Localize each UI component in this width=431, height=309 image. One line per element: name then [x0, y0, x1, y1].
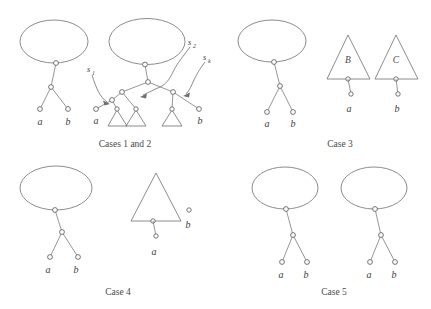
panel-case-4: a b a b Case 4 [20, 166, 191, 297]
node-triangle-apex-2 [134, 107, 138, 111]
ellipse-blob [20, 20, 88, 63]
s1-label: s [87, 64, 91, 74]
s2-label: s [188, 37, 192, 47]
panel-caption: Cases 1 and 2 [99, 139, 152, 149]
edge-root-to-mid [274, 62, 280, 86]
node-leaf-b [393, 260, 398, 265]
node-mid [278, 84, 283, 89]
subtree-triangle-right: a [131, 173, 181, 257]
diagram-svg: a b [0, 0, 431, 309]
leaf-label-b: b [186, 219, 191, 230]
s2-leader-curve [162, 47, 190, 86]
edge-left-to-tri2 [122, 92, 136, 109]
sk-subscript: k [208, 58, 211, 64]
subtree-triangle-2 [126, 110, 146, 126]
leaf-label-a: a [38, 116, 43, 127]
node-spine-right [171, 90, 176, 95]
node-leaf-a [38, 107, 43, 112]
edge-spine-left [122, 82, 148, 92]
s2-arrowhead [140, 94, 147, 99]
leaf-label-a: a [46, 264, 51, 275]
edge-root-to-mid [55, 210, 62, 232]
node-leaf-b [76, 255, 81, 260]
leaf-label-a: a [94, 115, 99, 126]
leaf-label-a: a [367, 269, 372, 280]
edge-mid-to-leaf-a [40, 87, 51, 109]
panel-caption: Case 4 [105, 287, 131, 297]
panel-case-3: a b B a C b Case 3 [238, 20, 418, 149]
edge-root-to-mid [375, 209, 381, 235]
subtree-B: B a [327, 35, 370, 114]
ellipse-blob [238, 20, 306, 62]
node-root [143, 62, 148, 67]
node-leaf-b [396, 92, 400, 96]
ellipse-blob [109, 19, 185, 65]
tree-expanded-right: a b s 1 s 2 s k [87, 19, 211, 127]
edge-mid-to-leaf-b [62, 232, 78, 257]
s1-subscript: 1 [92, 70, 95, 76]
edge-mid-to-leaf-b [51, 87, 68, 109]
figure-canvas: a b [0, 0, 431, 309]
s2-subscript: 2 [193, 43, 196, 49]
edge-mid-to-leaf-b [280, 86, 293, 112]
tree-simple-left: a b [20, 166, 92, 275]
leaf-label-a: a [265, 118, 270, 129]
node-root [272, 60, 277, 65]
s1-leader-curve [92, 75, 107, 102]
tree-right: a b [341, 167, 407, 280]
subtree-label-B: B [345, 55, 351, 65]
edge-mid-to-leaf-a [370, 235, 381, 262]
edge-mid-to-leaf-a [267, 86, 280, 112]
edge-mid-to-leaf-a [50, 232, 62, 257]
subtree-label-C: C [393, 55, 400, 65]
triangle-unlabeled [131, 173, 181, 221]
s2-arrow-shaft [143, 86, 162, 95]
edge-mid-to-leaf-b [293, 235, 307, 262]
leaf-label-b: b [304, 269, 309, 280]
panel-caption: Case 3 [327, 139, 353, 149]
node-triangle-apex-3 [170, 107, 174, 111]
panel-case-5: a b a b Case 5 [252, 167, 407, 297]
edge-mid-to-leaf-a [282, 235, 293, 262]
node-mid [49, 85, 54, 90]
edge-root-to-mid [51, 63, 56, 87]
node-leaf-a [48, 255, 53, 260]
node-leaf-b [291, 110, 296, 115]
node-leaf-a [265, 110, 270, 115]
annotation-s1: s 1 [87, 64, 110, 106]
panel-cases-1-and-2: a b [20, 19, 211, 150]
edge-root-to-mid [286, 209, 293, 235]
leaf-label-b: b [198, 115, 203, 126]
subtree-C: C b [375, 35, 418, 114]
node-leaf-b [197, 107, 202, 112]
node-leaf-b [187, 208, 191, 212]
leaf-label-b: b [392, 269, 397, 280]
edge-mid-to-leaf-b [381, 235, 395, 262]
leaf-label-a: a [347, 103, 352, 114]
leaf-label-a: a [152, 246, 157, 257]
node-root [284, 207, 289, 212]
subtree-triangle-1 [108, 110, 127, 126]
leaf-label-b: b [395, 103, 400, 114]
node-mid [379, 233, 384, 238]
node-leaf-a [154, 234, 158, 238]
node-root [373, 207, 378, 212]
leaf-label-a: a [279, 269, 284, 280]
isolated-node-b: b [186, 208, 192, 230]
tree-left: a b [252, 167, 318, 280]
node-leaf-b [66, 107, 71, 112]
node-spine [146, 80, 151, 85]
ellipse-blob [252, 167, 318, 209]
ellipse-blob [341, 167, 407, 209]
ellipse-blob [20, 166, 92, 210]
leaf-label-b: b [291, 118, 296, 129]
node-spine-left-inner [110, 98, 115, 103]
node-root [53, 208, 58, 213]
leaf-label-b: b [74, 264, 79, 275]
node-triangle-apex-1 [115, 107, 119, 111]
annotation-sk: s k [183, 52, 211, 98]
node-mid [60, 230, 65, 235]
leaf-label-b: b [66, 116, 71, 127]
annotation-s2: s 2 [140, 37, 196, 99]
sk-label: s [203, 52, 207, 62]
